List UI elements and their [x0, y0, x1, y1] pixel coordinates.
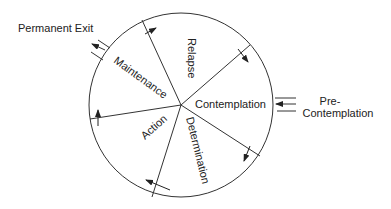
stages-of-change-wheel: Relapse Contemplation Determination Acti…: [0, 0, 391, 209]
entry-label-line2: Contemplation: [303, 107, 374, 119]
entry-label-line1: Pre-: [320, 95, 341, 107]
exit-label: Permanent Exit: [18, 22, 93, 34]
segment-label-action: Action: [138, 112, 169, 141]
segment-label-contemplation: Contemplation: [195, 98, 266, 110]
segment-label-determination: Determination: [184, 116, 212, 185]
segment-label-relapse: Relapse: [186, 38, 198, 78]
arrow-icon: [146, 180, 170, 190]
entry-lines: [275, 98, 296, 111]
arrow-icon: [244, 146, 250, 161]
